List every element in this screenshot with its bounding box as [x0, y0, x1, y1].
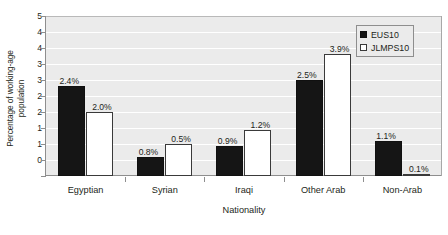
x-axis-tick-labels: EgyptianSyrianIraqiOther ArabNon-Arab: [46, 184, 442, 200]
legend-swatch-icon: [360, 31, 367, 38]
x-axis-tick-label: Iraqi: [235, 184, 253, 196]
legend-item[interactable]: JLMPS10: [360, 41, 409, 54]
bar-value-label: 3.9%: [330, 44, 350, 54]
y-axis-tick-label: 3: [26, 60, 42, 69]
bar[interactable]: 2.5%: [296, 80, 323, 176]
bar[interactable]: 1.1%: [375, 141, 402, 176]
y-axis-tick-mark: [41, 48, 46, 49]
bar-group: 2.5%3.9%: [284, 16, 363, 176]
y-axis-title-line-2: population: [15, 50, 26, 147]
bar[interactable]: 2.0%: [86, 112, 113, 176]
bar-group: 0.8%0.5%: [125, 16, 204, 176]
y-axis-tick-mark: [41, 80, 46, 81]
bar-group: 2.4%2.0%: [46, 16, 125, 176]
x-axis-tick-mark: [363, 177, 364, 182]
y-axis-tick-mark: [41, 32, 46, 33]
y-axis-tick-labels: 5443322110: [26, 16, 42, 176]
bar-value-label: 2.0%: [92, 102, 112, 112]
x-axis-tick-label: Egyptian: [68, 184, 104, 196]
x-axis-tick-label: Non-Arab: [383, 184, 422, 196]
x-axis-title: Nationality: [46, 205, 442, 215]
x-axis-tick-label: Other Arab: [301, 184, 345, 196]
bar-chart-figure: Percentage of working-age population 544…: [0, 0, 448, 235]
x-axis-tick-mark: [204, 177, 205, 182]
bar-value-label: 2.4%: [59, 76, 79, 86]
bar-value-label: 2.5%: [297, 70, 317, 80]
y-axis-tick-label: 3: [26, 76, 42, 85]
legend-item[interactable]: EUS10: [360, 28, 409, 41]
y-axis-tick-label: 2: [26, 108, 42, 117]
y-axis-tick-label: 2: [26, 92, 42, 101]
bar[interactable]: 0.8%: [137, 157, 164, 176]
y-axis-tick-mark: [41, 160, 46, 161]
y-axis-tick-label: 1: [26, 140, 42, 149]
y-axis-tick-mark: [41, 96, 46, 97]
bar-value-label: 1.1%: [376, 131, 396, 141]
legend-swatch-icon: [360, 44, 367, 51]
bar[interactable]: 3.9%: [324, 54, 351, 176]
bar[interactable]: 0.1%: [403, 174, 430, 176]
legend-label: EUS10: [371, 30, 399, 40]
bar[interactable]: 1.2%: [244, 130, 271, 176]
bar[interactable]: 2.4%: [58, 86, 85, 176]
chart-legend: EUS10 JLMPS10: [356, 25, 414, 57]
bar-value-label: 0.1%: [409, 164, 429, 174]
bar-group: 0.9%1.2%: [204, 16, 283, 176]
y-axis-tick-mark: [41, 64, 46, 65]
bar-value-label: 0.9%: [218, 136, 238, 146]
y-axis-tick-mark: [41, 16, 46, 17]
y-axis-tick-label: 4: [26, 44, 42, 53]
x-axis-tick-mark: [284, 177, 285, 182]
bar-value-label: 0.5%: [171, 134, 191, 144]
y-axis-tick-mark: [41, 176, 46, 177]
bar-value-label: 1.2%: [251, 120, 271, 130]
y-axis-tick-mark: [41, 128, 46, 129]
x-axis-tick-label: Syrian: [152, 184, 178, 196]
y-axis-tick-label: 5: [26, 12, 42, 21]
bar[interactable]: 0.5%: [165, 144, 192, 176]
bar-value-label: 0.8%: [139, 147, 159, 157]
legend-label: JLMPS10: [371, 43, 409, 53]
y-axis-tick-mark: [41, 144, 46, 145]
y-axis-title-line-1: Percentage of working-age: [5, 50, 15, 147]
y-axis-tick-mark: [41, 112, 46, 113]
y-axis-tick-label: 1: [26, 124, 42, 133]
bar[interactable]: 0.9%: [216, 146, 243, 176]
x-axis-tick-mark: [125, 177, 126, 182]
y-axis-tick-label: 0: [26, 156, 42, 165]
y-axis-tick-label: 4: [26, 28, 42, 37]
